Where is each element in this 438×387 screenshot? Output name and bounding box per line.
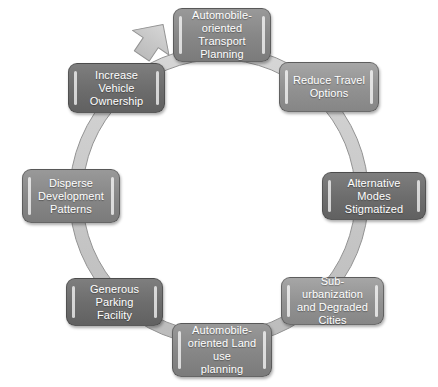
node-label: Disperse Development Patterns	[38, 177, 104, 216]
node-right-accent-bar	[111, 177, 114, 215]
node-label: Automobile- oriented Transport Planning	[185, 9, 259, 61]
node-alternative-modes-stigmatized[interactable]: Alternative Modes Stigmatized	[322, 172, 426, 220]
node-right-accent-bar	[370, 70, 373, 104]
node-left-accent-bar	[72, 286, 75, 318]
node-right-accent-bar	[262, 16, 265, 54]
node-right-accent-bar	[154, 286, 157, 318]
node-automobile-oriented-land-use-planning[interactable]: Automobile- oriented Land use planning	[172, 323, 272, 377]
node-sub-urbanization-and-degraded-cities[interactable]: Sub-urbanization and Degraded Cities	[281, 277, 384, 325]
node-left-accent-bar	[287, 285, 290, 317]
node-label: Sub-urbanization and Degraded Cities	[293, 275, 372, 327]
node-right-accent-bar	[156, 71, 159, 105]
node-right-accent-bar	[263, 331, 266, 369]
node-automobile-oriented-transport-planning[interactable]: Automobile- oriented Transport Planning	[173, 8, 271, 62]
node-left-accent-bar	[28, 177, 31, 215]
node-left-accent-bar	[74, 71, 77, 105]
node-label: Increase Vehicle Ownership	[80, 69, 153, 108]
node-left-accent-bar	[328, 180, 331, 212]
node-disperse-development-patterns[interactable]: Disperse Development Patterns	[22, 169, 120, 223]
node-generous-parking-facility[interactable]: Generous Parking Facility	[66, 278, 163, 326]
node-left-accent-bar	[178, 331, 181, 369]
node-increase-vehicle-ownership[interactable]: Increase Vehicle Ownership	[68, 63, 165, 113]
node-label: Automobile- oriented Land use planning	[184, 324, 260, 376]
node-label: Reduce Travel Options	[293, 74, 365, 100]
node-reduce-travel-options[interactable]: Reduce Travel Options	[279, 62, 379, 112]
node-right-accent-bar	[417, 180, 420, 212]
cycle-diagram: Automobile- oriented Transport Planning …	[0, 0, 438, 387]
node-left-accent-bar	[179, 16, 182, 54]
node-right-accent-bar	[375, 285, 378, 317]
node-left-accent-bar	[285, 70, 288, 104]
node-label: Generous Parking Facility	[78, 283, 151, 322]
node-label: Alternative Modes Stigmatized	[334, 177, 414, 216]
